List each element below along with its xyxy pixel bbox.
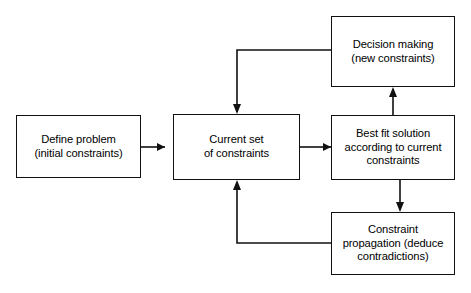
best-fit-solution-label: Best fit solution according to current c… [341,127,446,168]
flowchart-canvas: Define problem (initial constraints) Cur… [0,0,471,293]
best-fit-solution-node[interactable]: Best fit solution according to current c… [331,115,455,180]
decision-making-label: Decision making (new constraints) [347,38,438,65]
current-set-of-constraints-node[interactable]: Current set of constraints [173,114,300,180]
current-set-of-constraints-label: Current set of constraints [200,133,273,160]
define-problem-label: Define problem (initial constraints) [30,133,126,160]
edge-propagation-to-current [233,180,331,243]
constraint-propagation-label: Constraint propagation (deduce contradic… [339,223,448,264]
edge-current-to-bestfit [300,143,331,151]
define-problem-node[interactable]: Define problem (initial constraints) [16,115,141,178]
edge-decision-to-current [233,50,331,114]
edge-bestfit-to-decision [389,87,397,115]
edge-bestfit-to-propagation [396,180,404,212]
constraint-propagation-node[interactable]: Constraint propagation (deduce contradic… [331,212,455,275]
edge-define-to-current [141,143,165,151]
decision-making-node[interactable]: Decision making (new constraints) [331,16,455,87]
